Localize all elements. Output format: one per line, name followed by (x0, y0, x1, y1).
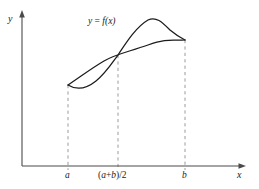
function-label-equals: = (92, 16, 102, 26)
graph-canvas (0, 0, 259, 189)
x-axis-label: x (237, 170, 241, 180)
y-axis-arrow-icon (19, 10, 25, 18)
function-curve-label: y = f(x) (88, 17, 116, 27)
function-curve-fx (68, 19, 185, 88)
function-graph-figure: y x a (a+b)/2 b y = f(x) (0, 0, 259, 189)
x-axis-arrow-icon (239, 163, 247, 169)
x-tick-label-midpoint: (a+b)/2 (98, 171, 127, 181)
quadratic-approximation-curve (68, 40, 185, 85)
dashed-drop-lines (68, 40, 185, 170)
midpoint-paren-close: )/2 (116, 170, 127, 180)
x-tick-label-a: a (65, 171, 70, 181)
curves-group (68, 19, 185, 88)
x-tick-label-b: b (182, 171, 187, 181)
y-axis-label: y (8, 14, 12, 24)
function-label-argument: (x) (105, 16, 116, 26)
